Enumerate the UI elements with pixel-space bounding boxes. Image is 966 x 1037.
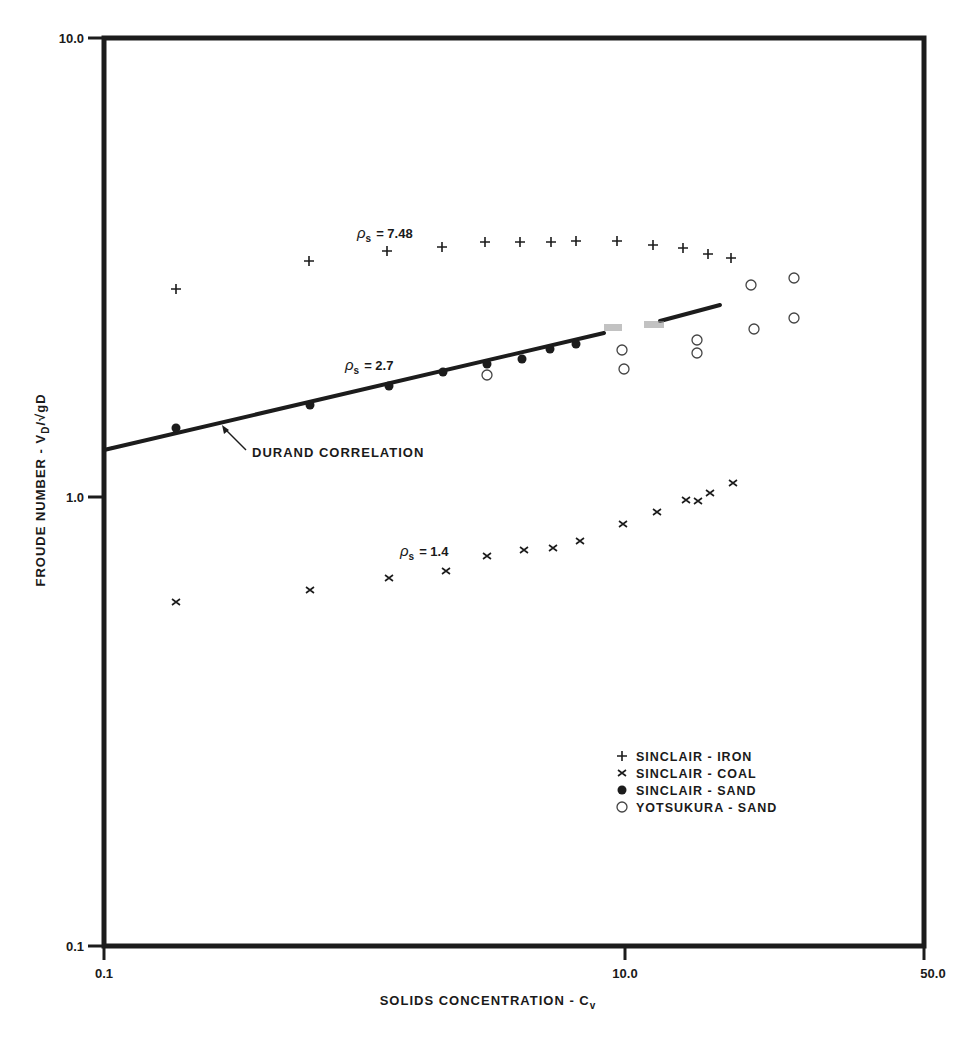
cross-marker-icon [653,509,661,515]
plus-marker-icon [617,751,627,761]
open-circle-marker-icon [789,313,799,323]
legend-label: SINCLAIR - IRON [636,750,752,764]
series-yotsukura-sand [482,273,799,380]
legend: SINCLAIR - IRONSINCLAIR - COALSINCLAIR -… [617,750,777,815]
y-tick-label: 0.1 [66,939,84,954]
filled-dot-marker-icon [518,355,527,364]
plus-marker-icon [515,237,525,247]
plus-marker-icon [304,256,314,266]
plus-marker-icon [726,253,736,263]
legend-item-plus: SINCLAIR - IRON [617,750,752,764]
open-circle-marker-icon [789,273,799,283]
series-sinclair-coal [172,480,737,605]
cross-marker-icon [483,553,491,559]
axis-tick-labels: 0.110.050.010.01.00.1 [59,31,946,981]
durand-correlation-label: DURAND CORRELATION [252,445,424,460]
filled-dot-marker-icon [172,424,181,433]
plus-marker-icon [612,236,622,246]
open-circle-marker-icon [619,364,629,374]
cross-marker-icon [549,545,557,551]
x-tick-label: 0.1 [95,966,113,981]
cross-marker-icon [576,538,584,544]
density-annotation: ρs= 7.48 [356,224,413,244]
y-tick-label: 1.0 [66,490,84,505]
cross-marker-icon [729,480,737,486]
x-tick-label: 50.0 [920,966,945,981]
legend-item-dot: SINCLAIR - SAND [618,784,757,798]
open-circle-marker-icon [692,348,702,358]
plus-marker-icon [382,246,392,256]
open-circle-marker-icon [749,324,759,334]
legend-label: SINCLAIR - SAND [636,784,757,798]
scan-artifact [604,324,622,331]
open-circle-marker-icon [617,802,627,812]
filled-dot-marker-icon [572,340,581,349]
cross-marker-icon [706,490,714,496]
cross-marker-icon [619,521,627,527]
cross-marker-icon [520,547,528,553]
x-tick-label: 10.0 [612,966,637,981]
filled-dot-marker-icon [306,401,315,410]
cross-marker-icon [385,575,393,581]
cross-marker-icon [618,770,626,776]
legend-label: SINCLAIR - COAL [636,767,757,781]
plus-marker-icon [571,236,581,246]
x-axis-title: SOLIDS CONCENTRATION - Cv [380,993,597,1011]
plus-marker-icon [437,242,447,252]
filled-dot-marker-icon [483,360,492,369]
plot-frame [104,38,924,946]
open-circle-marker-icon [692,335,702,345]
filled-dot-marker-icon [618,786,627,795]
open-circle-marker-icon [746,280,756,290]
cross-marker-icon [172,599,180,605]
durand-line-segment [660,305,720,321]
series-sinclair-iron [171,236,736,294]
cross-marker-icon [682,497,690,503]
cross-marker-icon [306,587,314,593]
plus-marker-icon [648,240,658,250]
legend-item-cross: SINCLAIR - COAL [618,767,757,781]
data-series [171,236,799,605]
durand-correlation-line [104,305,720,450]
filled-dot-marker-icon [385,382,394,391]
legend-label: YOTSUKURA - SAND [636,801,777,815]
open-circle-marker-icon [617,345,627,355]
legend-item-circle: YOTSUKURA - SAND [617,801,777,815]
plus-marker-icon [480,237,490,247]
annotations: ρs= 7.48ρs= 2.7ρs= 1.4DURAND CORRELATION [222,224,449,562]
filled-dot-marker-icon [546,345,555,354]
density-annotation: ρs= 1.4 [399,542,449,562]
cross-marker-icon [694,498,702,504]
y-axis-title: FROUDE NUMBER - VD/√gD [33,393,51,586]
plus-marker-icon [171,284,181,294]
y-tick-label: 10.0 [59,31,84,46]
plus-marker-icon [546,237,556,247]
durand-line-segment [104,333,604,450]
scan-artifact [644,321,664,328]
axis-ticks [88,38,924,960]
cross-marker-icon [442,568,450,574]
filled-dot-marker-icon [439,368,448,377]
density-annotation: ρs= 2.7 [344,356,393,376]
froude-vs-concentration-chart: 0.110.050.010.01.00.1 SOLIDS CONCENTRATI… [0,0,966,1037]
open-circle-marker-icon [482,370,492,380]
plus-marker-icon [678,243,688,253]
plus-marker-icon [703,249,713,259]
